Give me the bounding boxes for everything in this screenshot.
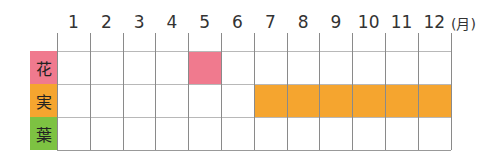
grid-vline xyxy=(188,33,189,150)
month-label: 9 xyxy=(319,12,352,32)
grid-vline xyxy=(254,33,255,150)
row-label: 実 xyxy=(30,84,57,117)
month-label: 8 xyxy=(287,12,320,32)
bar-0 xyxy=(188,51,221,84)
grid-vline xyxy=(352,33,353,150)
month-label: 6 xyxy=(221,12,254,32)
grid-vline xyxy=(155,33,156,150)
grid-vline xyxy=(221,33,222,150)
row-label: 花 xyxy=(30,51,57,84)
month-label: 11 xyxy=(385,12,418,32)
month-label: 2 xyxy=(90,12,123,32)
grid-vline xyxy=(451,33,452,150)
grid-vline xyxy=(385,33,386,150)
month-label: 5 xyxy=(188,12,221,32)
unit-label: (月) xyxy=(451,13,476,33)
grid-vline xyxy=(123,33,124,150)
month-label: 7 xyxy=(254,12,287,32)
row-label: 葉 xyxy=(30,117,57,150)
grid-vline xyxy=(287,33,288,150)
grid-hline xyxy=(57,150,451,151)
grid-vline xyxy=(418,33,419,150)
grid-vline xyxy=(90,33,91,150)
month-label: 4 xyxy=(155,12,188,32)
month-label: 12 xyxy=(418,12,451,32)
grid-vline xyxy=(57,33,58,150)
grid-vline xyxy=(319,33,320,150)
month-label: 10 xyxy=(352,12,385,32)
month-label: 1 xyxy=(57,12,90,32)
month-label: 3 xyxy=(123,12,156,32)
